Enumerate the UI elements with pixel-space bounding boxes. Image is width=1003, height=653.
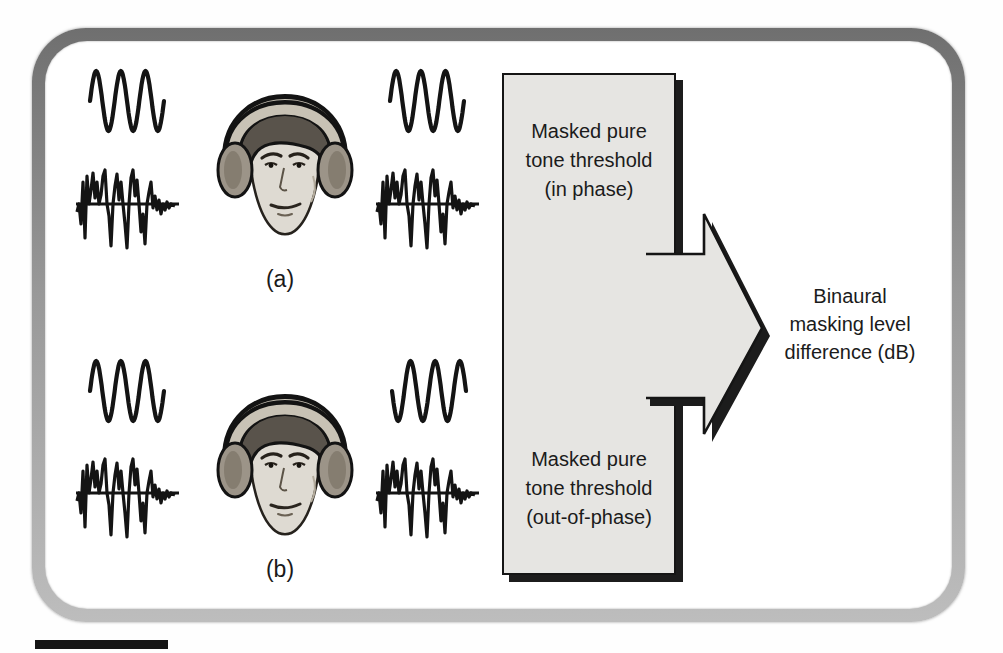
text-line: tone threshold: [504, 474, 674, 503]
listener-headphones-icon: [215, 358, 355, 546]
panel-b-label: (b): [240, 556, 320, 583]
noise-wave-icon: [75, 441, 181, 543]
panel-a-label: (a): [240, 266, 320, 293]
sine-wave-icon: [86, 64, 168, 138]
listener-headphones-icon: [215, 58, 355, 246]
text-line: Masked pure: [504, 117, 674, 146]
figure-page: (a) (b) Masked pure tone threshold (in p…: [0, 0, 1003, 653]
noise-wave-icon: [375, 441, 481, 543]
masked-threshold-in-phase-text: Masked pure tone threshold (in phase): [504, 117, 674, 204]
sine-wave-inverted-icon: [388, 354, 470, 428]
bottom-rule-bar: [35, 640, 168, 649]
noise-wave-icon: [375, 152, 481, 254]
text-line: masking level: [762, 310, 938, 338]
text-line: difference (dB): [762, 338, 938, 366]
sine-wave-icon: [86, 354, 168, 428]
right-arrow-icon: [636, 200, 776, 450]
text-line: Binaural: [762, 282, 938, 310]
text-line: tone threshold: [504, 146, 674, 175]
noise-wave-icon: [75, 152, 181, 254]
sine-wave-icon: [386, 64, 468, 138]
binaural-mld-text: Binaural masking level difference (dB): [762, 282, 938, 366]
text-line: (out-of-phase): [504, 503, 674, 532]
masked-threshold-out-of-phase-text: Masked pure tone threshold (out-of-phase…: [504, 445, 674, 532]
